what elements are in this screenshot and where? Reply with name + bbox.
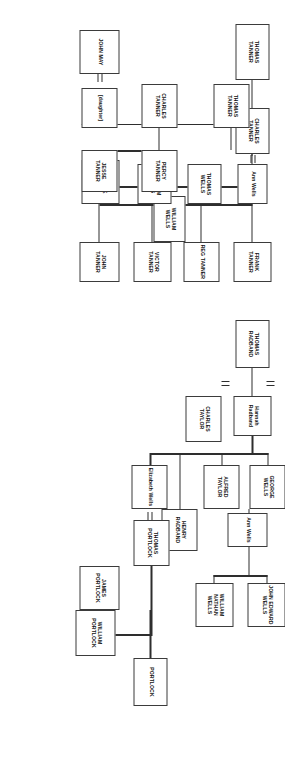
connector-ann-wells-2-children-spine [213,575,267,577]
node-ann-wells-2[interactable]: Ann Wells [227,513,267,547]
node-frank-tanner[interactable]: FRANK TANNER [233,242,271,282]
node-john-may[interactable]: JOHN MAY [79,30,119,74]
node-label: THOMAS PORTLOCK [145,522,156,564]
node-daughter[interactable]: [daughter] [81,88,117,128]
node-john-edward-wells[interactable]: JOHN EDWARD WELLS [247,583,285,627]
node-victor-tanner[interactable]: VICTOR TANNER [133,242,171,282]
node-label: Hannah Radband [246,398,257,434]
node-label: ALFRED TAYLOR [215,467,226,507]
marriage-elizabeth-thomas-portlock [147,512,152,520]
connector-reg-in [200,204,201,242]
node-label: THOMAS TANNER [225,86,236,126]
node-hannah-radband[interactable]: Hannah Radband [233,396,271,436]
connector-thomas-to-charles-tanner [251,80,252,108]
connector-to-john-edward-wells [266,575,267,583]
node-label: JOHN TANNER [93,244,104,280]
connector-to-elizabeth-wells [149,453,151,465]
marriage-charles-tanner-ann-wells [250,155,255,163]
node-charles-taylor[interactable]: CHARLES TAYLOR [185,396,221,442]
node-label: Ann Wells [244,515,250,545]
node-label: JAMES PORTLOCK [93,568,104,608]
node-alfred-taylor[interactable]: ALFRED TAYLOR [203,465,239,509]
node-label: JOHN MAY [96,32,102,72]
connector-frank-in [251,204,252,242]
node-label: WILLIAM WELLS [163,198,174,240]
connector-thomas-radband-to-hannah [251,368,252,396]
node-label: Elizabeth Wells [146,467,152,507]
node-label: CHARLES TANNER [153,86,164,126]
node-label: WILLIAM NATHAN WELLS [205,585,222,625]
connector-hannah-children-spine [150,453,268,455]
marriage-daughter-john-may [97,74,102,82]
node-john-tanner[interactable]: JOHN TANNER [79,242,119,282]
node-jesse-tanner[interactable]: JESSE TANNER [81,150,117,192]
connector-to-william-nathan-wells [213,575,214,583]
node-ann-wells-1[interactable]: Ann Wells [237,164,267,204]
node-thomas-portlock[interactable]: THOMAS PORTLOCK [133,520,169,566]
node-label: THOMAS TANNER [246,26,257,78]
connector-thomas-tanner-2-out [230,128,231,150]
node-label: REG TANNER [198,244,204,280]
node-label: CHARLES TAYLOR [197,398,208,440]
node-label: THOMAS WELLS [198,166,209,202]
node-james-portlock[interactable]: JAMES PORTLOCK [79,566,119,610]
node-percy-tanner[interactable]: PERCY TANNER [141,150,177,192]
connector-to-george-wells-2 [267,453,268,465]
node-label: VICTOR TANNER [146,244,157,280]
node-label: [daughter] [96,90,102,126]
node-label: WILLIAM PORTLOCK [89,612,100,654]
chart-canvas: THOMAS TANNER CHARLES TANNER Ann Wells W… [0,0,285,784]
node-label: JOHN EDWARD WELLS [260,585,271,625]
connector-john-tanner-in [98,204,99,242]
node-label: PORTLOCK [147,660,153,704]
node-label: PERCY TANNER [153,152,164,190]
node-thomas-tanner-2[interactable]: THOMAS TANNER [213,84,249,128]
connector-ann-wells-2-out [248,547,249,575]
node-label: HENRY RADBAND [173,511,184,549]
connector-portlock-stem [149,634,151,658]
connector-to-james-portlock [149,610,151,634]
node-elizabeth-wells[interactable]: Elizabeth Wells [131,465,167,509]
node-label: Ann Wells [249,166,255,202]
connector-victor-in [151,204,152,242]
node-william-portlock[interactable]: WILLIAM PORTLOCK [75,610,115,656]
node-label: FRANK TANNER [246,244,257,280]
family-tree-chart: THOMAS TANNER CHARLES TANNER Ann Wells W… [0,0,285,784]
marriage-hannah-charles-taylor [221,381,229,386]
node-label: THOMAS RADBAND [246,322,257,366]
node-charles-tanner-2[interactable]: CHARLES TANNER [141,84,177,128]
connector-to-henry-radband [179,453,180,509]
node-label: GEORGE WELLS [261,467,272,507]
node-george-wells-2[interactable]: GEORGE WELLS [249,465,285,509]
connector-charles-tanner-2-out [158,128,159,150]
node-thomas-wells[interactable]: THOMAS WELLS [187,164,221,204]
connector-to-alfred-taylor [221,453,222,465]
marriage-george-wells-hannah [266,381,274,386]
node-label: JESSE TANNER [93,152,104,190]
node-thomas-radband[interactable]: THOMAS RADBAND [235,320,269,368]
node-reg-tanner[interactable]: REG TANNER [183,242,219,282]
node-portlock[interactable]: PORTLOCK [133,658,167,706]
node-william-nathan-wells[interactable]: WILLIAM NATHAN WELLS [195,583,233,627]
connector-hannah-stem [251,436,253,454]
node-thomas-tanner-1[interactable]: THOMAS TANNER [235,24,269,80]
